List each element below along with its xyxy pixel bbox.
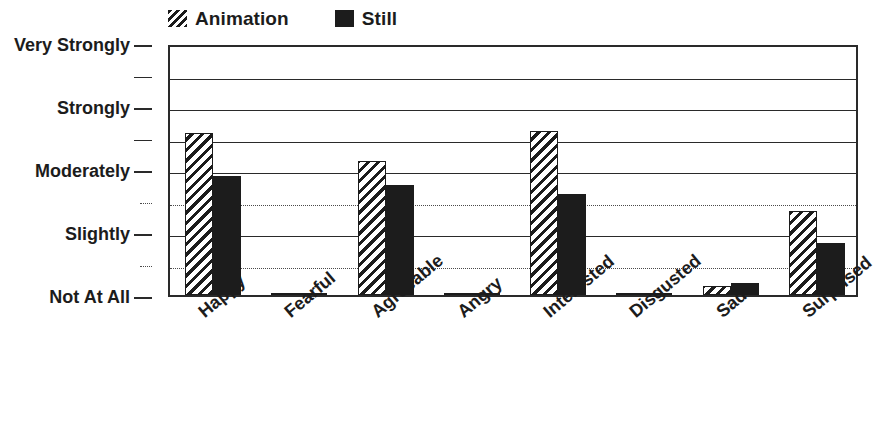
y-axis-label: Very Strongly	[14, 36, 130, 54]
y-axis-minor-tick	[140, 266, 152, 267]
legend-entry-still: Still	[335, 9, 397, 28]
y-axis-tick	[134, 171, 152, 173]
y-axis-tick	[134, 234, 152, 236]
bar-agreeable-animation	[358, 161, 386, 295]
x-axis: HappyFearfulAgreeableAngryInterestedDisg…	[168, 297, 858, 421]
y-axis-minor-tick	[134, 77, 152, 78]
bar-happy-animation	[185, 133, 213, 295]
y-axis-tick	[134, 108, 152, 110]
bar-chart-figure: Animation Still Not At AllSlightlyModera…	[0, 0, 881, 421]
legend-entry-animation: Animation	[168, 9, 289, 28]
chart-legend: Animation Still	[168, 4, 397, 32]
y-axis-label: Moderately	[35, 162, 130, 180]
y-axis: Not At AllSlightlyModeratelyStronglyVery…	[0, 45, 152, 297]
y-axis-tick	[134, 297, 152, 299]
legend-label-still: Still	[362, 9, 397, 28]
bar-surprised-animation	[789, 211, 817, 295]
y-axis-minor-tick	[134, 140, 152, 141]
y-axis-minor-tick	[140, 203, 152, 204]
y-axis-label: Not At All	[49, 288, 130, 306]
bar-interested-animation	[530, 131, 558, 295]
legend-swatch-solid-icon	[335, 10, 354, 27]
legend-label-animation: Animation	[195, 9, 289, 28]
legend-swatch-hatched-icon	[168, 10, 187, 27]
y-axis-tick	[134, 45, 152, 47]
y-axis-label: Slightly	[65, 225, 130, 243]
y-axis-label: Strongly	[57, 99, 130, 117]
plot-area	[168, 45, 858, 297]
bar-series-container	[170, 47, 856, 295]
